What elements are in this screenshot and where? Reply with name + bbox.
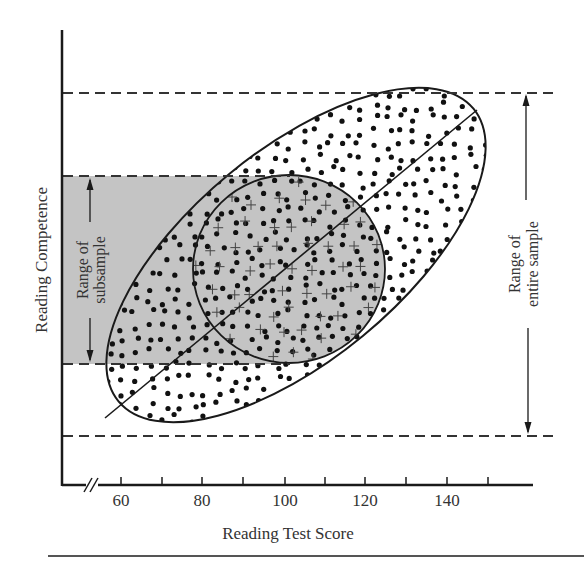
x-tick-label-100: 100	[272, 491, 298, 510]
subsample-range-label-line1: Range of	[74, 240, 92, 299]
axis-break-icon	[84, 478, 98, 492]
x-tick-label-140: 140	[434, 491, 460, 510]
bottom-rule-divider	[48, 555, 584, 557]
entire-range-label-line2: entire sample	[524, 221, 542, 307]
subsample-range-label-line2: subsample	[91, 236, 109, 304]
x-tick-label-80: 80	[194, 491, 211, 510]
scatter-diagram: 60 80 100 120 140 Reading Test Score Rea…	[0, 0, 584, 574]
x-axis-title: Reading Test Score	[222, 524, 354, 543]
entire-range-label-line1: Range of	[506, 234, 524, 293]
y-axis-title: Reading Competence	[32, 187, 51, 333]
subsample-band	[63, 175, 385, 364]
x-tick-label-120: 120	[352, 491, 378, 510]
x-tick-label-60: 60	[113, 491, 130, 510]
